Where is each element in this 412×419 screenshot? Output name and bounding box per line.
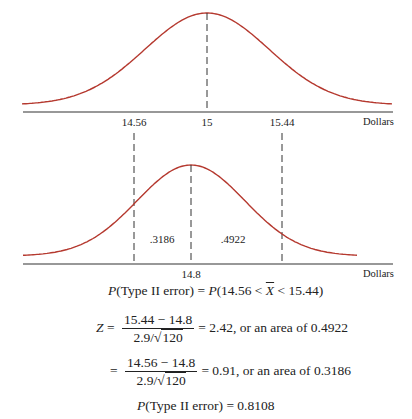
den-text: 2.9/	[133, 330, 154, 345]
eq-text: =	[110, 363, 121, 378]
top-tick-label: 15	[202, 116, 213, 128]
xbar-symbol: X	[266, 283, 274, 298]
eq-text: =	[104, 320, 118, 335]
denominator: 2.9/√120	[122, 329, 194, 346]
eq-text: (Type II error) = 0.8108	[145, 398, 274, 413]
fraction: 14.56 − 14.82.9/√120	[125, 355, 197, 389]
eq-p: P	[108, 283, 116, 298]
top-axis-label: Dollars	[363, 116, 394, 127]
bottom-normal-curve	[23, 165, 357, 255]
bottom-axis-label: Dollars	[363, 268, 394, 279]
z-symbol: Z	[96, 320, 104, 335]
eq-text: (14.56 <	[217, 283, 266, 298]
region-label-left: .3186	[150, 233, 175, 245]
bottom-tick-label: 14.8	[181, 268, 200, 280]
eq-text: = 0.91, or an area of 0.3186	[201, 363, 351, 378]
equation-z-lower: = 14.56 − 14.82.9/√120= 0.91, or an area…	[110, 355, 351, 389]
equation-type2-result: P(Type II error) = 0.8108	[137, 398, 275, 414]
fraction: 15.44 − 14.82.9/√120	[122, 312, 194, 346]
eq-p: P	[208, 283, 216, 298]
top-tick-label: 15.44	[270, 116, 295, 128]
eq-text: (Type II error) =	[116, 283, 208, 298]
eq-text: < 15.44)	[274, 283, 323, 298]
den-text: 2.9/	[137, 373, 158, 388]
numerator: 14.56 − 14.8	[125, 355, 197, 372]
eq-text: = 2.42, or an area of 0.4922	[198, 320, 348, 335]
equation-z-upper: Z = 15.44 − 14.82.9/√120= 2.42, or an ar…	[96, 312, 348, 346]
top-tick-label: 14.56	[122, 116, 147, 128]
region-label-right: .4922	[221, 233, 246, 245]
denominator: 2.9/√120	[125, 372, 197, 389]
numerator: 15.44 − 14.8	[122, 312, 194, 329]
sqrt-value: 120	[161, 329, 182, 345]
sqrt-value: 120	[165, 372, 186, 388]
equation-type2-error: P(Type II error) = P(14.56 < X < 15.44)	[108, 283, 323, 299]
eq-p: P	[137, 398, 145, 413]
